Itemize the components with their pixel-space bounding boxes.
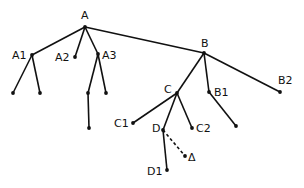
tree-labels: AA1A2A3BB1B2CC1C2DD1Δ	[12, 9, 293, 178]
edge-b-b1	[204, 53, 209, 92]
edge-a-a3	[85, 27, 98, 54]
node-c2	[190, 126, 194, 130]
node-d	[161, 128, 165, 132]
node-label-c: C	[164, 83, 172, 96]
node-b2	[278, 90, 282, 94]
node-label-c2: C2	[196, 122, 211, 135]
node-a3a	[86, 91, 90, 95]
tree-diagram: AA1A2A3BB1B2CC1C2DD1Δ	[0, 0, 304, 188]
node-d1	[165, 168, 169, 172]
edge-d-delta	[163, 130, 185, 156]
edge-c-c2	[177, 93, 192, 128]
node-a1	[30, 53, 34, 57]
node-a3b	[104, 91, 108, 95]
node-a2	[73, 55, 77, 59]
node-label-a1: A1	[12, 49, 27, 62]
edge-a3a-a3c	[88, 93, 89, 128]
node-label-d1: D1	[147, 165, 162, 178]
node-label-d: D	[152, 122, 160, 135]
node-c	[175, 91, 179, 95]
node-b1	[207, 90, 211, 94]
node-label-a: A	[81, 9, 89, 22]
edge-a3-a3a	[88, 54, 98, 93]
node-a1b	[38, 91, 42, 95]
edge-b-c	[177, 53, 204, 93]
node-label-a3: A3	[102, 49, 117, 62]
node-a1a	[11, 91, 15, 95]
edge-c-c1	[133, 93, 177, 123]
node-c1	[131, 121, 135, 125]
node-label-b1: B1	[214, 86, 229, 99]
node-b1a	[234, 124, 238, 128]
edge-d-d1	[163, 130, 167, 170]
node-delta	[183, 154, 187, 158]
node-label-delta: Δ	[188, 151, 196, 164]
edge-a1-a1b	[32, 55, 40, 93]
node-a3	[96, 52, 100, 56]
node-b	[202, 51, 206, 55]
node-a	[83, 25, 87, 29]
node-label-b: B	[201, 37, 209, 50]
node-label-a2: A2	[55, 51, 70, 64]
node-label-c1: C1	[114, 117, 129, 130]
tree-edges	[13, 27, 280, 170]
node-label-b2: B2	[278, 74, 293, 87]
tree-nodes	[11, 25, 282, 172]
node-a3c	[87, 126, 91, 130]
